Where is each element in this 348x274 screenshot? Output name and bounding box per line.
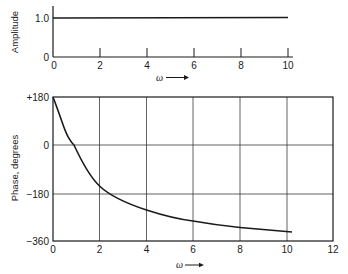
- arrow-right-icon: [185, 263, 204, 267]
- x-tick-label: 0: [51, 60, 57, 71]
- amplitude-y-label: Amplitude: [9, 11, 20, 53]
- x-tick-label: 0: [50, 244, 56, 255]
- amplitude-x-label: ω: [156, 72, 163, 83]
- x-tick-label: 10: [281, 244, 293, 255]
- y-tick-label: 0: [43, 52, 49, 63]
- x-tick-label: 10: [282, 60, 294, 71]
- y-tick-label: 1.0: [35, 13, 49, 24]
- y-tick-label: −180: [26, 189, 49, 200]
- x-tick-label: 6: [190, 244, 196, 255]
- phase-y-label: Phase, degrees: [9, 134, 20, 201]
- x-tick-label: 4: [144, 244, 150, 255]
- x-tick-label: 12: [327, 244, 339, 255]
- phase-curve: [53, 97, 292, 232]
- x-tick-label: 2: [97, 244, 103, 255]
- arrow-right-icon: [166, 75, 189, 80]
- y-tick-label: −360: [26, 236, 49, 247]
- figure: 1.0 0 0 2 4 6 8 10 Amplitude ω: [0, 0, 348, 274]
- x-tick-label: 6: [191, 60, 197, 71]
- phase-plot: +180 0 −180 −360 0 2 4 6 8 10 12 Phase, …: [9, 92, 339, 271]
- x-tick-label: 8: [237, 244, 243, 255]
- amplitude-plot: 1.0 0 0 2 4 6 8 10 Amplitude ω: [9, 6, 294, 83]
- x-tick-label: 4: [144, 60, 150, 71]
- y-tick-label: 0: [43, 140, 49, 151]
- x-tick-label: 2: [97, 60, 103, 71]
- phase-x-label: ω: [176, 259, 183, 270]
- x-tick-label: 8: [238, 60, 244, 71]
- amplitude-line: [53, 18, 288, 19]
- y-tick-label: +180: [26, 92, 49, 103]
- phase-grid: [53, 97, 333, 241]
